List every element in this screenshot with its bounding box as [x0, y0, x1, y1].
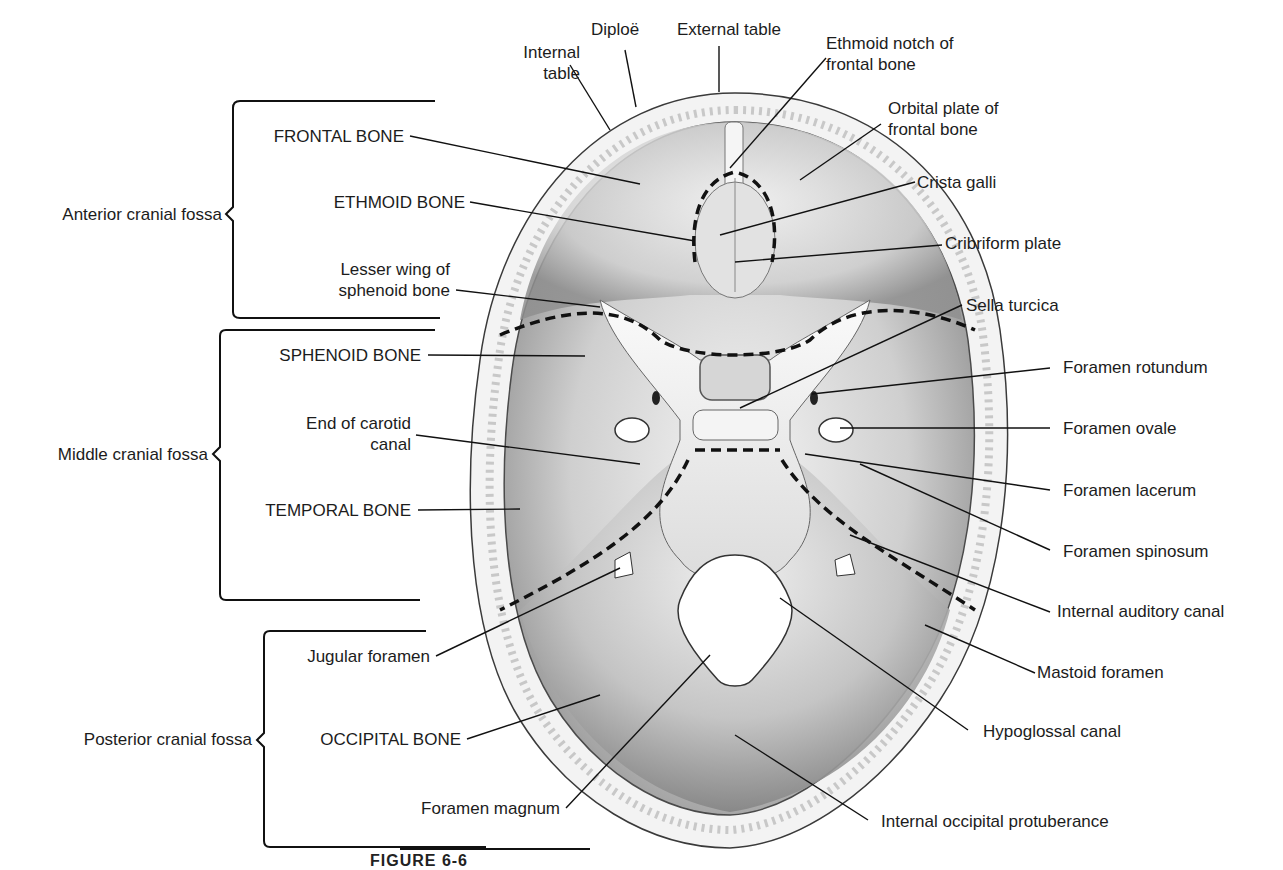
- ethmoid-notch-label: Ethmoid notch of frontal bone: [826, 33, 954, 75]
- carotid-canal-label: End of carotid canal: [250, 413, 411, 455]
- orbital-plate-label: Orbital plate of frontal bone: [888, 98, 999, 140]
- foramen-spinosum-label: Foramen spinosum: [1063, 541, 1209, 562]
- temporal-bone-label: TEMPORAL BONE: [200, 500, 411, 521]
- carotid-canal-line2: canal: [250, 434, 411, 455]
- orbital-plate-line2: frontal bone: [888, 119, 999, 140]
- anterior-fossa-label: Anterior cranial fossa: [0, 204, 222, 225]
- carotid-canal-line1: End of carotid: [250, 413, 411, 434]
- frontal-bone-label: FRONTAL BONE: [200, 126, 404, 147]
- ethmoid-notch-line2: frontal bone: [826, 54, 954, 75]
- internal-occipital-protuberance-label: Internal occipital protuberance: [881, 811, 1109, 832]
- sella-turcica-label: Sella turcica: [966, 295, 1059, 316]
- foramen-ovale-label: Foramen ovale: [1063, 418, 1176, 439]
- internal-auditory-canal-label: Internal auditory canal: [1057, 601, 1224, 622]
- internal-table-line2: table: [470, 63, 580, 84]
- sphenoid-bone-label: SPHENOID BONE: [200, 345, 421, 366]
- ethmoid-bone-label: ETHMOID BONE: [200, 192, 465, 213]
- lesser-wing-label: Lesser wing of sphenoid bone: [250, 259, 450, 301]
- crista-galli-label: Crista galli: [917, 172, 996, 193]
- internal-table-line1: Internal: [470, 42, 580, 63]
- lesser-wing-line2: sphenoid bone: [250, 280, 450, 301]
- foramen-rotundum-label: Foramen rotundum: [1063, 357, 1208, 378]
- diploe-label: Diploë: [591, 19, 639, 40]
- external-table-label: External table: [677, 19, 781, 40]
- jugular-foramen-label: Jugular foramen: [250, 646, 430, 667]
- mastoid-foramen-label: Mastoid foramen: [1037, 662, 1164, 683]
- internal-table-label: Internal table: [470, 42, 580, 84]
- figure-caption: FIGURE 6-6: [370, 852, 468, 870]
- hypoglossal-canal-label: Hypoglossal canal: [983, 721, 1121, 742]
- foramen-magnum-label: Foramen magnum: [350, 798, 560, 819]
- foramen-lacerum-label: Foramen lacerum: [1063, 480, 1196, 501]
- posterior-fossa-label: Posterior cranial fossa: [0, 729, 252, 750]
- lesser-wing-line1: Lesser wing of: [250, 259, 450, 280]
- middle-fossa-label: Middle cranial fossa: [0, 444, 208, 465]
- occipital-bone-label: OCCIPITAL BONE: [300, 729, 461, 750]
- cribriform-plate-label: Cribriform plate: [945, 233, 1061, 254]
- orbital-plate-line1: Orbital plate of: [888, 98, 999, 119]
- ethmoid-notch-line1: Ethmoid notch of: [826, 33, 954, 54]
